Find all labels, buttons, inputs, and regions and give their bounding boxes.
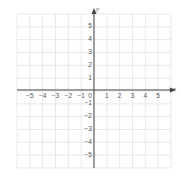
coordinate-plane: −5−4−3−2−101234512345−1−2−3−4−5 y x: [0, 0, 181, 183]
y-tick-label: −1: [85, 99, 93, 106]
y-tick-label: 2: [88, 61, 92, 68]
x-tick-label: −1: [77, 92, 85, 99]
x-tick-label: 1: [105, 92, 109, 99]
y-tick-label: −3: [85, 125, 93, 132]
x-tick-label: 0: [88, 92, 92, 99]
axes: [17, 8, 176, 168]
x-tick-label: −5: [26, 92, 34, 99]
x-tick-label: −3: [52, 92, 60, 99]
y-tick-label: 5: [88, 22, 92, 29]
y-axis-label: y: [95, 5, 100, 13]
y-tick-label: −5: [85, 151, 93, 158]
x-tick-label: 5: [156, 92, 160, 99]
x-axis-label: x: [172, 85, 177, 93]
y-tick-label: −4: [85, 138, 93, 145]
y-tick-label: 3: [88, 48, 92, 55]
x-tick-label: −2: [65, 92, 73, 99]
y-tick-label: 1: [88, 74, 92, 81]
x-tick-label: 3: [131, 92, 135, 99]
x-tick-label: −4: [39, 92, 47, 99]
y-tick-label: −2: [85, 112, 93, 119]
y-tick-label: 4: [88, 35, 92, 42]
x-tick-label: 4: [143, 92, 147, 99]
x-tick-label: 2: [118, 92, 122, 99]
